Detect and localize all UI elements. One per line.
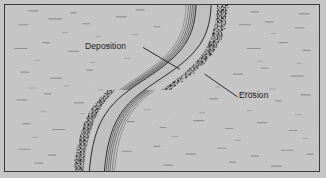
paper-grain-overlay <box>5 5 319 171</box>
label-erosion: Erosion <box>239 90 269 100</box>
label-deposition: Deposition <box>85 41 126 51</box>
figure-frame <box>4 4 320 172</box>
figure-container: Deposition Erosion <box>0 0 326 178</box>
meander-diagram-artwork <box>5 5 319 171</box>
